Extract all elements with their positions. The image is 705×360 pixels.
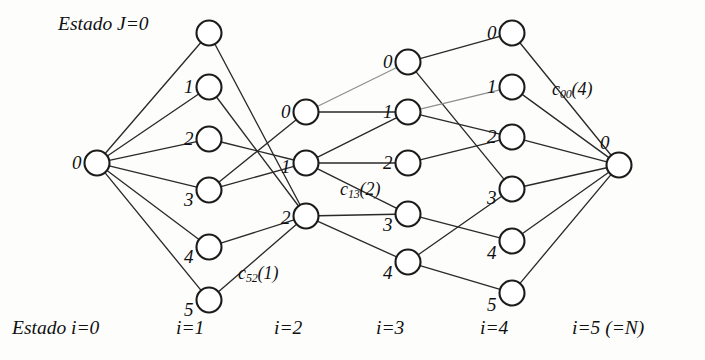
cost-subscript: 13 [348,187,360,201]
column-label-i4: i=4 [480,318,508,338]
node-state-label-i2-s0: 0 [281,102,291,121]
node-state-label-i3-s2: 2 [383,153,393,172]
node-state-label-i4-s2: 2 [487,127,497,146]
top-left-caption: Estado J=0 [58,14,149,34]
cost-stage: (1) [258,263,279,283]
node-state-label-i2-s1: 1 [281,157,291,176]
trellis-node-i0-s0[interactable] [85,151,110,176]
column-label-i5: i=5 (=N) [572,318,644,338]
node-state-label-i4-s0: 0 [487,23,497,42]
trellis-edge [420,217,500,238]
cost-base: c [238,263,246,283]
node-state-label-i3-s3: 3 [383,215,393,234]
cost-stage: (2) [360,179,381,199]
node-state-label-i1-s1: 1 [184,77,194,96]
trellis-node-i5-s0[interactable] [607,153,632,178]
trellis-node-i3-s0[interactable] [396,50,421,75]
cost-base: c [552,79,560,99]
trellis-node-i4-s4[interactable] [500,229,525,254]
cost-label-c13-2: c13(2) [340,180,381,200]
trellis-node-i4-s3[interactable] [500,177,525,202]
column-label-i3: i=3 [376,318,404,338]
bottom-left-caption: Estado i=0 [12,318,99,338]
trellis-node-i4-s0[interactable] [500,21,525,46]
cost-subscript: 52 [246,271,258,285]
trellis-node-i1-s0[interactable] [197,21,222,46]
trellis-figure: Estado J=0 Estado i=0 012345012012340123… [0,0,705,360]
trellis-node-i1-s1[interactable] [197,75,222,100]
trellis-node-i4-s5[interactable] [500,281,525,306]
trellis-edge [522,94,609,157]
trellis-node-i1-s3[interactable] [197,178,222,203]
trellis-node-i4-s2[interactable] [500,125,525,150]
node-state-label-i4-s1: 1 [487,77,497,96]
trellis-edge [215,44,300,205]
node-state-label-i2-s2: 2 [281,208,291,227]
trellis-node-i3-s2[interactable] [396,151,421,176]
trellis-edge [522,172,609,234]
column-label-i2: i=2 [274,318,302,338]
node-state-label-i3-s4: 4 [383,263,393,282]
trellis-node-i3-s3[interactable] [396,202,421,227]
trellis-node-i3-s1[interactable] [396,100,421,125]
cost-subscript: 00 [560,87,572,101]
node-state-label-i0-s0: 0 [72,153,82,172]
trellis-node-i2-s2[interactable] [294,204,319,229]
trellis-edge [109,166,197,187]
trellis-node-i4-s1[interactable] [500,75,525,100]
node-state-label-i4-s5: 5 [487,295,497,314]
nodes-group [85,21,632,313]
trellis-edge [520,175,611,284]
node-state-label-i3-s0: 0 [383,52,393,71]
trellis-node-i3-s4[interactable] [396,250,421,275]
trellis-node-i1-s5[interactable] [197,288,222,313]
trellis-node-i2-s1[interactable] [294,151,319,176]
cost-label-c00-4: c00(4) [552,80,593,100]
trellis-edge [524,168,607,187]
node-state-label-i4-s3: 3 [487,188,497,207]
edges-group [105,36,611,291]
cost-base: c [340,179,348,199]
node-state-label-i1-s3: 3 [184,190,194,209]
node-state-label-i4-s4: 4 [487,243,497,262]
node-state-label-i3-s1: 1 [383,102,393,121]
node-state-label-i1-s4: 4 [184,247,194,266]
node-state-label-i1-s2: 2 [184,129,194,148]
cost-label-c52-1: c52(1) [238,264,279,284]
column-label-i1: i=1 [176,318,204,338]
node-state-label-i5-s0: 0 [600,133,610,152]
cost-stage: (4) [572,79,593,99]
trellis-node-i1-s4[interactable] [197,235,222,260]
trellis-edge [524,140,607,162]
trellis-edge [420,266,500,290]
trellis-node-i2-s0[interactable] [294,100,319,125]
trellis-node-i1-s2[interactable] [197,127,222,152]
